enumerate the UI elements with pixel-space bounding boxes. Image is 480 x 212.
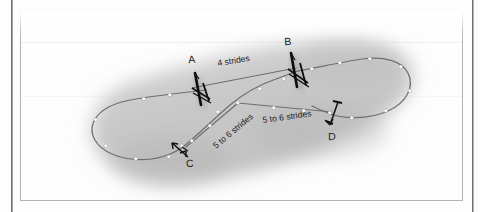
fence-label-B: B	[284, 35, 292, 47]
course-diagram: A B C	[20, 11, 463, 201]
fence-label-D: D	[328, 130, 336, 142]
arena-surface	[20, 11, 463, 187]
page-binding-line-left-soft	[12, 0, 13, 212]
scanned-page: A B C	[0, 0, 480, 212]
fence-label-A: A	[188, 53, 196, 65]
page-binding-line-right-soft	[473, 0, 474, 212]
fence-label-C: C	[186, 157, 195, 170]
